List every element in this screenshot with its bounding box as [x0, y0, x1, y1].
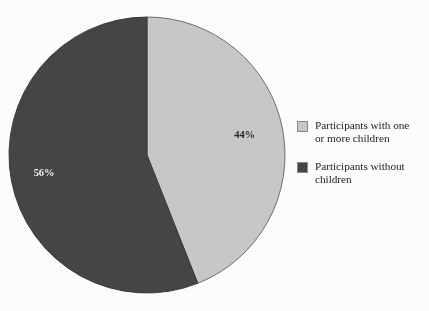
legend-label-line-1: Participants with one	[315, 119, 409, 131]
pie-slice-value-label-0: 44%	[234, 129, 255, 140]
legend-swatch-light-icon	[297, 121, 308, 132]
legend-item-participants-with-children[interactable]: Participants with one or more children	[297, 119, 429, 146]
legend-swatch-dark-icon	[297, 162, 308, 173]
legend-label-participants-without-children: Participants without children	[315, 160, 405, 187]
pie-slice-value-label-1: 56%	[34, 167, 55, 178]
legend-label-line-2: or more children	[315, 132, 389, 144]
chart-legend: Participants with one or more children P…	[297, 119, 429, 201]
legend-item-participants-without-children[interactable]: Participants without children	[297, 160, 429, 187]
pie-chart-graphic	[0, 0, 300, 311]
chart-plot-area: 44% 56%	[0, 0, 300, 311]
legend-label-line-1: Participants without	[315, 160, 405, 172]
legend-label-line-2: children	[315, 173, 352, 185]
legend-label-participants-with-children: Participants with one or more children	[315, 119, 409, 146]
pie-chart-figure: 44% 56% Participants with one or more ch…	[0, 0, 429, 311]
